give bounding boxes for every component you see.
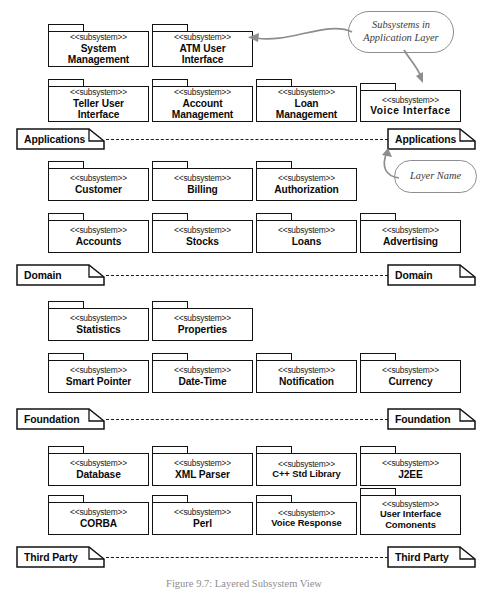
stereotype-label: <<subsystem>> <box>174 459 231 468</box>
package-name-line1: C++ Std Library <box>272 469 340 479</box>
stereotype-label: <<subsystem>> <box>70 88 127 97</box>
stereotype-label: <<subsystem>> <box>70 314 127 323</box>
package-name-line1: ATM User <box>180 43 226 54</box>
stereotype-label: <<subsystem>> <box>174 314 231 323</box>
layer-label-third-party-left[interactable]: Third Party <box>16 546 105 568</box>
package-stocks[interactable]: <<subsystem>> Stocks <box>152 213 253 253</box>
package-notification[interactable]: <<subsystem>> Notification <box>256 353 357 393</box>
stereotype-label: <<subsystem>> <box>174 366 231 375</box>
package-body: <<subsystem>> User Interface Comonents <box>360 495 461 535</box>
package-j2ee[interactable]: <<subsystem>> J2EE <box>360 446 461 486</box>
callout-line1: Layer Name <box>410 170 461 183</box>
package-name-line2: Interface <box>78 109 120 120</box>
package-customer[interactable]: <<subsystem>> Customer <box>48 161 149 201</box>
layer-name: Foundation <box>395 408 451 430</box>
package-name-line1: CORBA <box>80 518 117 529</box>
stereotype-label: <<subsystem>> <box>278 366 335 375</box>
layer-name: Domain <box>395 264 433 286</box>
package-name-line1: Advertising <box>383 236 438 247</box>
layer-connector-domain <box>106 275 388 276</box>
package-atm-user-interface[interactable]: <<subsystem>> ATM User Interface <box>152 24 253 67</box>
package-body: <<subsystem>> Notification <box>256 360 357 393</box>
package-xml-parser[interactable]: <<subsystem>> XML Parser <box>152 446 253 486</box>
package-name-line1: Database <box>76 469 121 480</box>
package-body: <<subsystem>> Properties <box>152 308 253 341</box>
layer-label-domain-left[interactable]: Domain <box>16 264 105 286</box>
package-name-line1: Customer <box>75 184 122 195</box>
layer-name: Applications <box>395 128 456 150</box>
package-name-line2: Management <box>68 54 129 65</box>
package-cpp-std-library[interactable]: <<subsystem>> C++ Std Library <box>256 446 357 486</box>
figure-caption: Figure 9.7: Layered Subsystem View <box>0 578 488 589</box>
stereotype-label: <<subsystem>> <box>278 88 335 97</box>
package-body: <<subsystem>> Billing <box>152 168 253 201</box>
package-user-interface-components[interactable]: <<subsystem>> User Interface Comonents <box>360 488 461 535</box>
layer-label-third-party-right[interactable]: Third Party <box>387 546 476 568</box>
package-account-management[interactable]: <<subsystem>> Account Management <box>152 79 253 122</box>
stereotype-label: <<subsystem>> <box>174 174 231 183</box>
package-body: <<subsystem>> Currency <box>360 360 461 393</box>
stereotype-label: <<subsystem>> <box>70 366 127 375</box>
package-body: <<subsystem>> C++ Std Library <box>256 453 357 486</box>
layer-name: Third Party <box>395 546 449 568</box>
stereotype-label: <<subsystem>> <box>174 508 231 517</box>
package-system-management[interactable]: <<subsystem>> System Management <box>48 24 149 67</box>
stereotype-label: <<subsystem>> <box>174 88 231 97</box>
package-body: <<subsystem>> Authorization <box>256 168 357 201</box>
package-date-time[interactable]: <<subsystem>> Date-Time <box>152 353 253 393</box>
layer-label-foundation-right[interactable]: Foundation <box>387 408 476 430</box>
layer-label-applications-right[interactable]: Applications <box>387 128 476 150</box>
package-name-line1: Accounts <box>76 236 122 247</box>
package-name-line1: Loan <box>295 98 319 109</box>
stereotype-label: <<subsystem>> <box>174 33 231 42</box>
package-body: <<subsystem>> Stocks <box>152 220 253 253</box>
callout-layer-name: Layer Name <box>394 160 477 193</box>
package-voice-interface[interactable]: <<subsystem>> Voice Interface <box>360 83 461 122</box>
package-billing[interactable]: <<subsystem>> Billing <box>152 161 253 201</box>
package-body: <<subsystem>> J2EE <box>360 453 461 486</box>
package-body: <<subsystem>> XML Parser <box>152 453 253 486</box>
package-name-line2: Interface <box>182 54 224 65</box>
layer-label-foundation-left[interactable]: Foundation <box>16 408 105 430</box>
layer-label-applications-left[interactable]: Applications <box>16 128 105 150</box>
stereotype-label: <<subsystem>> <box>278 226 335 235</box>
package-name-line1: Account <box>182 98 222 109</box>
package-smart-pointer[interactable]: <<subsystem>> Smart Pointer <box>48 353 149 393</box>
package-perl[interactable]: <<subsystem>> Perl <box>152 495 253 535</box>
package-loans[interactable]: <<subsystem>> Loans <box>256 213 357 253</box>
callout-line2: Application Layer <box>363 32 438 45</box>
stereotype-label: <<subsystem>> <box>382 96 439 105</box>
package-properties[interactable]: <<subsystem>> Properties <box>152 301 253 341</box>
package-name-line1: Teller User <box>73 98 124 109</box>
layer-name: Third Party <box>24 546 78 568</box>
package-name-line1: Smart Pointer <box>66 376 132 387</box>
package-name-line1: Stocks <box>186 236 219 247</box>
package-currency[interactable]: <<subsystem>> Currency <box>360 353 461 393</box>
package-body: <<subsystem>> Database <box>48 453 149 486</box>
package-authorization[interactable]: <<subsystem>> Authorization <box>256 161 357 201</box>
package-name-line1: Voice Interface <box>370 105 451 116</box>
package-name-line1: Loans <box>292 236 322 247</box>
stereotype-label: <<subsystem>> <box>70 459 127 468</box>
package-name-line1: Billing <box>187 184 217 195</box>
package-accounts[interactable]: <<subsystem>> Accounts <box>48 213 149 253</box>
layered-subsystem-diagram: <<subsystem>> System Management <<subsys… <box>0 0 488 589</box>
package-body: <<subsystem>> Perl <box>152 502 253 535</box>
stereotype-label: <<subsystem>> <box>382 226 439 235</box>
stereotype-label: <<subsystem>> <box>278 174 335 183</box>
layer-connector-foundation <box>106 419 388 420</box>
package-advertising[interactable]: <<subsystem>> Advertising <box>360 213 461 253</box>
package-voice-response[interactable]: <<subsystem>> Voice Response <box>256 495 357 535</box>
stereotype-label: <<subsystem>> <box>174 226 231 235</box>
stereotype-label: <<subsystem>> <box>70 226 127 235</box>
layer-connector-applications <box>106 139 388 140</box>
package-teller-user-interface[interactable]: <<subsystem>> Teller User Interface <box>48 79 149 122</box>
package-body: <<subsystem>> Account Management <box>152 86 253 122</box>
package-corba[interactable]: <<subsystem>> CORBA <box>48 495 149 535</box>
package-body: <<subsystem>> Customer <box>48 168 149 201</box>
package-database[interactable]: <<subsystem>> Database <box>48 446 149 486</box>
layer-label-domain-right[interactable]: Domain <box>387 264 476 286</box>
package-name-line1: Currency <box>389 376 433 387</box>
package-loan-management[interactable]: <<subsystem>> Loan Management <box>256 79 357 122</box>
package-statistics[interactable]: <<subsystem>> Statistics <box>48 301 149 341</box>
